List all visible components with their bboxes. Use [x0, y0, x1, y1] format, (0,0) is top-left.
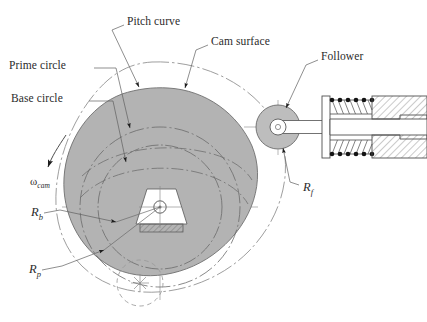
label-r-p: Rp — [29, 262, 41, 279]
label-r-b: Rb — [31, 205, 43, 222]
cam-surface — [64, 88, 258, 276]
roller-follower — [256, 105, 322, 149]
r-p-subscript: p — [37, 269, 41, 279]
diagram-canvas — [0, 0, 427, 322]
omega-subscript: cam — [37, 181, 50, 190]
label-cam-surface: Cam surface — [211, 35, 270, 47]
label-prime-circle: Prime circle — [9, 59, 66, 71]
r-f-symbol: R — [303, 180, 311, 194]
label-pitch-curve: Pitch curve — [127, 15, 180, 27]
label-base-circle: Base circle — [11, 92, 63, 104]
r-p-symbol: R — [29, 262, 37, 276]
label-omega-cam: ωcam — [30, 175, 50, 190]
r-b-subscript: b — [39, 212, 43, 222]
r-b-symbol: R — [31, 205, 39, 219]
cam-follower-diagram: Pitch curve Cam surface Prime circle Bas… — [0, 0, 427, 322]
r-f-subscript: f — [311, 187, 313, 197]
label-r-f: Rf — [303, 180, 313, 197]
label-follower: Follower — [321, 50, 363, 62]
follower-plate — [322, 96, 330, 158]
omega-rotation-arrow — [48, 135, 66, 167]
